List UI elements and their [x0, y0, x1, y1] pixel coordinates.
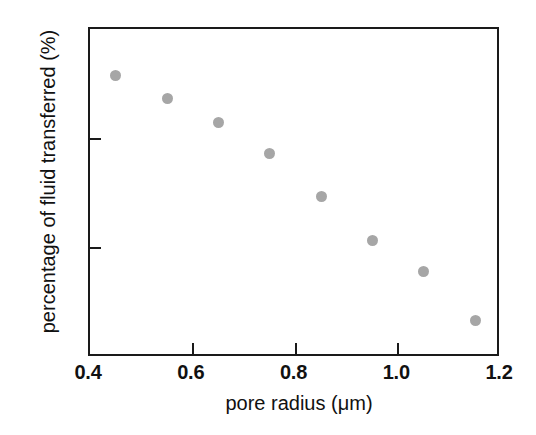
- x-tick-label: 1.0: [383, 361, 410, 384]
- data-point: [367, 235, 378, 246]
- x-axis-title: pore radius (μm): [0, 392, 536, 415]
- x-tick-label: 1.2: [486, 361, 513, 384]
- x-tick-label: 0.6: [177, 361, 204, 384]
- x-tick-label: 0.8: [280, 361, 307, 384]
- data-point: [264, 148, 275, 159]
- y-axis-title: percentage of fluid transferred (%): [37, 2, 60, 362]
- data-point: [213, 117, 224, 128]
- x-tick-mark: [295, 343, 297, 354]
- data-point: [162, 93, 173, 104]
- plot-area: [88, 27, 499, 356]
- data-point: [316, 191, 327, 202]
- x-axis-title-text: pore radius (μm): [225, 392, 372, 415]
- data-point: [110, 70, 121, 81]
- data-point: [470, 315, 481, 326]
- data-point: [418, 266, 429, 277]
- x-tick-mark: [397, 343, 399, 354]
- y-tick-mark: [90, 247, 101, 249]
- x-tick-mark: [192, 343, 194, 354]
- x-tick-label: 0.4: [75, 361, 102, 384]
- scatter-chart-figure: 58626670 0.40.60.81.01.2 pore radius (μm…: [0, 0, 536, 435]
- y-tick-mark: [90, 138, 101, 140]
